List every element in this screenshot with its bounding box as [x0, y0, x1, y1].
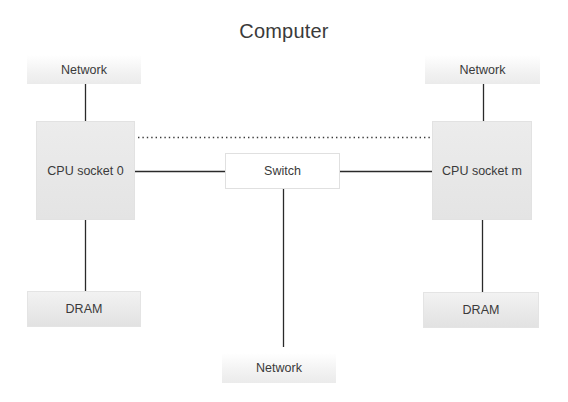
- diagram-title: Computer: [0, 20, 568, 43]
- node-label: CPU socket 0: [47, 164, 123, 178]
- node-network-bottom: Network: [222, 353, 336, 383]
- node-label: CPU socket m: [442, 164, 522, 178]
- node-switch: Switch: [225, 153, 340, 189]
- node-label: Network: [61, 63, 107, 77]
- node-label: DRAM: [66, 302, 103, 316]
- node-label: Switch: [264, 164, 301, 178]
- node-cpu-socket-m: CPU socket m: [432, 121, 532, 220]
- node-network-top-right: Network: [425, 55, 540, 84]
- node-dram-right: DRAM: [423, 292, 539, 328]
- node-label: DRAM: [463, 303, 500, 317]
- node-dram-left: DRAM: [27, 291, 141, 327]
- node-label: Network: [256, 361, 302, 375]
- node-network-top-left: Network: [27, 55, 141, 84]
- node-label: Network: [460, 63, 506, 77]
- node-cpu-socket-0: CPU socket 0: [36, 121, 135, 220]
